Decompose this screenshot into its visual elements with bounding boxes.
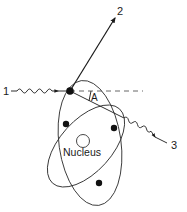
angle-label: A	[91, 92, 98, 103]
incident-photon-wave	[17, 89, 58, 93]
electron-dot	[111, 125, 117, 131]
incident-photon-label: 1	[3, 85, 9, 97]
electron-dot	[96, 180, 102, 186]
compton-scattering-diagram: Nucleus 1 2 3 A	[0, 0, 187, 212]
scattered-photon-label: 3	[171, 139, 177, 151]
electron-dot	[63, 121, 69, 127]
scattered-electron-label: 2	[117, 5, 123, 17]
scattered-photon-tail	[155, 137, 167, 143]
scattered-photon-wave	[124, 117, 155, 137]
scattered-electron-arrow	[70, 18, 115, 91]
nucleus-label: Nucleus	[63, 146, 101, 158]
target-electron-dot	[66, 87, 74, 95]
